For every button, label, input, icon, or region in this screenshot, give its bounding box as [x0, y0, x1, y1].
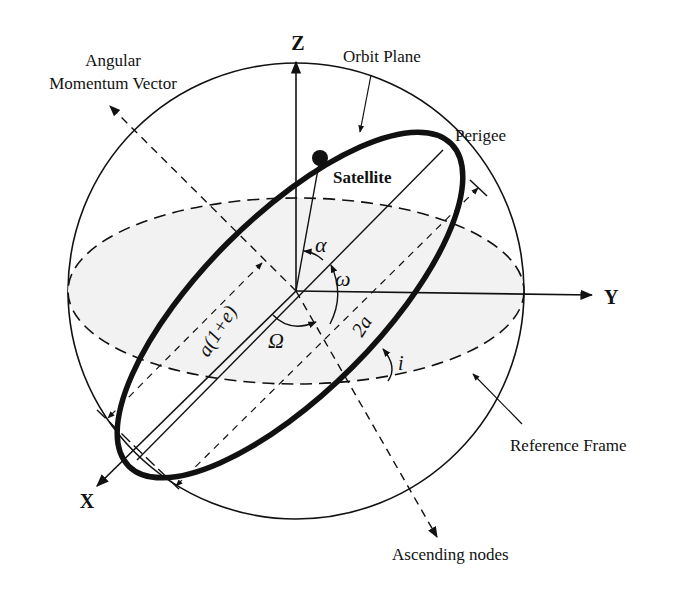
y-axis-label: Y [604, 286, 619, 308]
angular-momentum-label: Momentum Vector [49, 74, 177, 93]
orbit-plane-label: Orbit Plane [343, 47, 421, 66]
x-axis-label: X [80, 490, 95, 512]
orbit-diagram: Angular Momentum Vector Z Y X Orbit Plan… [0, 0, 681, 597]
z-axis-label: Z [291, 32, 304, 54]
perigee-label: Perigee [455, 126, 506, 145]
satellite-dot [312, 150, 328, 166]
ascending-nodes-label: Ascending nodes [392, 545, 509, 564]
reference-frame-label: Reference Frame [510, 436, 627, 455]
angular-momentum-label: Angular [85, 51, 141, 70]
satellite-label: Satellite [333, 168, 392, 187]
alpha-label: α [315, 232, 327, 257]
orbit-plane-pointer [360, 75, 371, 132]
inclination-label: i [398, 352, 404, 374]
reference-frame-pointer [473, 374, 522, 424]
omega-capital-label: Ω [268, 328, 284, 353]
dimension-tick [470, 180, 487, 196]
omega-small-label: ω [335, 266, 351, 291]
